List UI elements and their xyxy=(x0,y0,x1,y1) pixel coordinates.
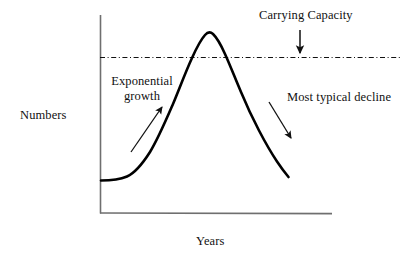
carrying-capacity-label: Carrying Capacity xyxy=(259,9,353,23)
diagram-svg xyxy=(0,0,413,260)
exponential-growth-label-line2: growth xyxy=(104,89,180,104)
x-axis-label: Years xyxy=(196,235,224,249)
exponential-growth-label-line1: Exponential xyxy=(104,74,180,89)
exponential-growth-label: Exponential growth xyxy=(104,74,180,104)
figure-canvas: Numbers Years Carrying Capacity Most typ… xyxy=(0,0,413,260)
most-typical-decline-label: Most typical decline xyxy=(287,91,391,105)
population-curve xyxy=(101,33,289,181)
y-axis-label: Numbers xyxy=(20,109,67,123)
exponential-growth-arrow xyxy=(131,107,162,152)
x-axis-line xyxy=(100,213,332,214)
most-typical-decline-arrow xyxy=(269,102,291,138)
